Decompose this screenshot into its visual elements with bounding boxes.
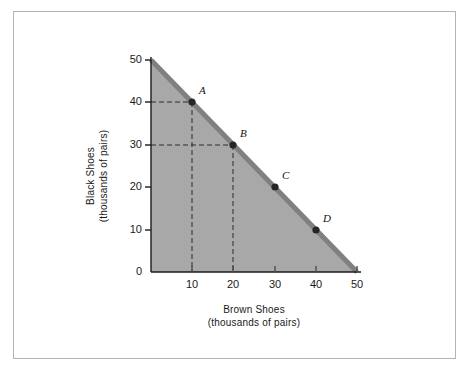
x-axis-title-sub: (thousands of pairs) [151,316,357,329]
x-tick-label-10: 10 [178,278,206,290]
y-tick-label-30: 30 [116,138,142,150]
x-tick-label-50: 50 [343,278,371,290]
data-point-c-label: C [282,169,289,181]
x-tick-label-20: 20 [219,278,247,290]
data-point-b-marker[interactable] [229,141,236,148]
data-point-c-marker[interactable] [271,183,278,190]
data-point-b-label: B [240,127,247,139]
x-tick-label-30: 30 [261,278,289,290]
data-point-d-marker[interactable] [312,226,319,233]
data-point-a-marker[interactable] [188,98,195,105]
x-tick-label-40: 40 [302,278,330,290]
y-tick-label-10: 10 [116,223,142,235]
y-axis-title-main: Black Shoes [84,73,97,279]
chart-plot-area: A B C D 50 40 30 20 10 0 10 20 30 40 50 … [0,0,469,378]
y-tick-label-40: 40 [116,95,142,107]
x-axis-title-main: Brown Shoes [151,303,357,316]
y-tick-label-50: 50 [116,53,142,65]
y-tick-label-0: 0 [116,265,142,277]
y-axis-title: Black Shoes (thousands of pairs) [84,73,110,279]
y-tick-label-20: 20 [116,180,142,192]
y-axis-title-sub: (thousands of pairs) [97,73,110,279]
data-point-d-label: D [323,212,331,224]
x-axis-title: Brown Shoes (thousands of pairs) [151,303,357,329]
data-point-a-label: A [199,84,206,96]
